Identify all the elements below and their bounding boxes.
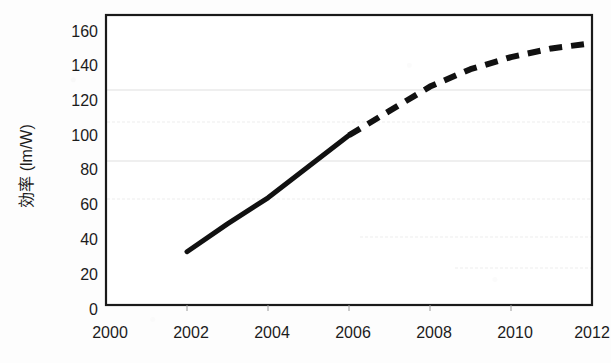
x-tick-label: 2000: [92, 324, 128, 341]
line-chart: 160 140 120 100 80 60 40 20 0 2000 2002 …: [0, 0, 611, 363]
y-tick-label: 120: [71, 92, 98, 109]
y-axis-title: 効率 (lm/W): [18, 124, 35, 208]
y-tick-label: 80: [80, 161, 98, 178]
x-tick-label: 2004: [254, 324, 290, 341]
x-tick-label: 2012: [574, 324, 610, 341]
y-tick-label: 60: [80, 196, 98, 213]
y-tick-label: 20: [80, 266, 98, 283]
y-tick-label: 140: [71, 57, 98, 74]
y-tick-label: 0: [89, 301, 98, 318]
plot-background: [106, 15, 592, 305]
y-axis-ticks: 160 140 120 100 80 60 40 20 0: [71, 23, 98, 318]
chart-figure: 160 140 120 100 80 60 40 20 0 2000 2002 …: [0, 0, 611, 363]
x-tick-label: 2002: [173, 324, 209, 341]
x-axis-ticks: 2000 2002 2004 2006 2008 2010 2012: [92, 324, 610, 341]
x-tick-label: 2010: [497, 324, 533, 341]
x-tick-label: 2006: [335, 324, 371, 341]
y-tick-label: 100: [71, 127, 98, 144]
y-tick-label: 160: [71, 23, 98, 40]
x-tick-label: 2008: [416, 324, 452, 341]
y-tick-label: 40: [80, 231, 98, 248]
